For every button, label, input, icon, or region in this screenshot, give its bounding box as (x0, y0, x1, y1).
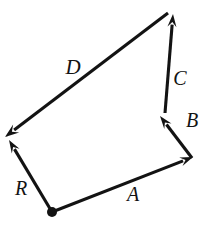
vector-shaft-c (165, 25, 172, 113)
vector-label-r: R (15, 178, 27, 198)
vector-label-c: C (173, 68, 186, 88)
vector-label-b: B (186, 110, 198, 130)
vector-label-d: D (65, 57, 80, 78)
vector-diagram: ABCDR (0, 0, 213, 226)
vector-canvas (0, 0, 213, 226)
vector-shaft-a (52, 161, 183, 212)
vector-label-a: A (127, 184, 139, 204)
vector-group (5, 13, 193, 212)
origin-dot (47, 207, 57, 217)
vector-shaft-d (14, 13, 168, 130)
